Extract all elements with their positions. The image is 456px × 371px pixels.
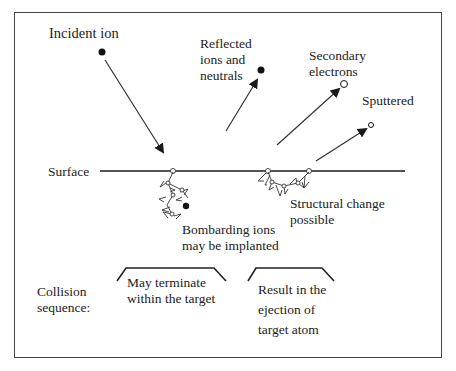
- reflected-dot: [258, 67, 265, 74]
- result-line-3: target atom: [258, 320, 326, 340]
- reflected-label: Reflected ions and neutrals: [200, 36, 252, 84]
- reflected-line-3: neutrals: [200, 68, 252, 84]
- collision-line-2: sequence:: [37, 300, 90, 316]
- collision-sequence-label: Collision sequence:: [37, 284, 90, 316]
- collision-line-1: Collision: [37, 284, 90, 300]
- terminate-line-1: May terminate: [127, 275, 215, 291]
- sputtered-circle: [369, 123, 374, 128]
- secondary-line-1: Secondary: [309, 48, 366, 64]
- result-line-1: Result in the: [258, 280, 326, 300]
- bombarding-line-1: Bombarding ions: [182, 222, 279, 238]
- bombarding-line-2: may be implanted: [182, 238, 279, 254]
- sputtered-label: Sputtered: [362, 93, 414, 109]
- reflected-line-1: Reflected: [200, 36, 252, 52]
- right-collision-cascade: [258, 169, 312, 197]
- structural-change-label: Structural change possible: [290, 196, 385, 228]
- left-collision-cascade: [159, 169, 188, 220]
- terminate-label: May terminate within the target: [127, 275, 215, 307]
- structural-line-2: possible: [290, 212, 385, 228]
- secondary-arrow: [277, 89, 339, 145]
- reflected-arrow: [226, 80, 257, 131]
- bombarding-ions-label: Bombarding ions may be implanted: [182, 222, 279, 254]
- terminate-line-2: within the target: [127, 291, 215, 307]
- incident-arrow: [105, 60, 163, 152]
- secondary-electron-circle: [341, 81, 348, 88]
- sputtered-arrow: [316, 129, 366, 161]
- surface-label: Surface: [48, 164, 89, 180]
- incident-ion-dot: [99, 49, 106, 56]
- structural-line-1: Structural change: [290, 196, 385, 212]
- secondary-line-2: electrons: [309, 64, 366, 80]
- incident-ion-label: Incident ion: [49, 25, 119, 41]
- implanted-ion-dot: [183, 203, 189, 209]
- reflected-line-2: ions and: [200, 52, 252, 68]
- secondary-electrons-label: Secondary electrons: [309, 48, 366, 80]
- result-label: Result in the ejection of target atom: [258, 280, 326, 340]
- result-line-2: ejection of: [258, 300, 326, 320]
